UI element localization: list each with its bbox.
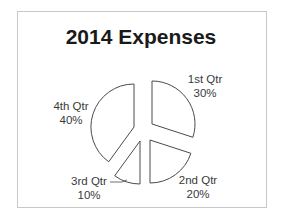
- data-label-2nd-qtr: 2nd Qtr 20%: [173, 173, 223, 201]
- label-category: 3rd Qtr: [66, 174, 112, 188]
- pie-plot-area: [0, 0, 282, 219]
- label-category: 1st Qtr: [182, 72, 228, 86]
- label-percent: 20%: [173, 187, 223, 201]
- label-percent: 30%: [182, 86, 228, 100]
- data-label-1st-qtr: 1st Qtr 30%: [182, 72, 228, 100]
- data-label-4th-qtr: 4th Qtr 40%: [48, 99, 94, 127]
- label-percent: 40%: [48, 113, 94, 127]
- label-category: 2nd Qtr: [173, 173, 223, 187]
- label-percent: 10%: [66, 188, 112, 202]
- data-label-3rd-qtr: 3rd Qtr 10%: [66, 174, 112, 202]
- pie-slice-4th-qtr[interactable]: [91, 84, 134, 162]
- label-category: 4th Qtr: [48, 99, 94, 113]
